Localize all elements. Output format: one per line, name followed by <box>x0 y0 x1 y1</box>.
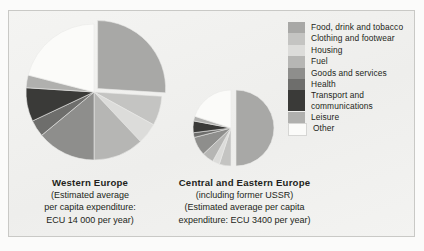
legend-item-health: Health <box>288 79 418 90</box>
legend-item-fuel: Fuel <box>288 56 418 67</box>
legend-label-other: Other <box>313 123 334 134</box>
legend-swatch-transport <box>288 90 305 111</box>
pie-chart-central-eastern-europe <box>183 80 283 180</box>
legend-swatch-health <box>288 79 305 90</box>
legend-swatch-housing <box>288 45 305 56</box>
caption-west-line3: ECU 14 000 per year) <box>16 214 164 226</box>
legend-label-fuel: Fuel <box>311 56 328 67</box>
legend-swatch-clothing <box>288 33 305 44</box>
pie-east-svg <box>183 80 283 180</box>
caption-east-title: Central and Eastern Europe <box>152 176 337 189</box>
legend-swatch-leisure <box>288 112 305 123</box>
legend-label-health: Health <box>311 79 336 90</box>
pie-chart-western-europe <box>16 14 176 174</box>
legend-label-leisure: Leisure <box>311 112 339 123</box>
caption-west-line1: (Estimated average <box>16 189 164 201</box>
caption-west-title: Western Europe <box>16 176 164 189</box>
pie-chart-figure: Food, drink and tobacco Clothing and foo… <box>0 0 424 251</box>
pie-west-svg <box>16 14 176 174</box>
caption-central-eastern-europe: Central and Eastern Europe (including fo… <box>152 176 337 226</box>
caption-east-line3: expenditure: ECU 3400 per year) <box>152 214 337 226</box>
legend-item-clothing: Clothing and footwear <box>288 33 418 44</box>
legend-item-leisure: Leisure <box>288 112 418 123</box>
caption-east-line2: (Estimated average per capita <box>152 201 337 213</box>
legend-label-food: Food, drink and tobacco <box>311 22 403 33</box>
caption-western-europe: Western Europe (Estimated average per ca… <box>16 176 164 226</box>
legend-swatch-food <box>288 22 305 33</box>
legend-item-other: Other <box>288 123 418 136</box>
legend-item-goods: Goods and services <box>288 68 418 79</box>
legend: Food, drink and tobacco Clothing and foo… <box>288 22 418 136</box>
caption-west-line2: per capita expenditure: <box>16 201 164 213</box>
legend-swatch-goods <box>288 68 305 79</box>
legend-label-transport: Transport and communications <box>311 90 418 111</box>
legend-label-clothing: Clothing and footwear <box>311 33 395 44</box>
pie-slice <box>236 90 274 166</box>
legend-item-food: Food, drink and tobacco <box>288 22 418 33</box>
caption-east-line1: (including former USSR) <box>152 189 337 201</box>
legend-label-housing: Housing <box>311 45 342 56</box>
legend-item-housing: Housing <box>288 45 418 56</box>
legend-item-transport: Transport and communications <box>288 90 418 111</box>
legend-swatch-other <box>288 123 307 136</box>
legend-swatch-fuel <box>288 56 305 67</box>
pie-slice <box>98 21 166 93</box>
legend-label-goods: Goods and services <box>311 68 387 79</box>
